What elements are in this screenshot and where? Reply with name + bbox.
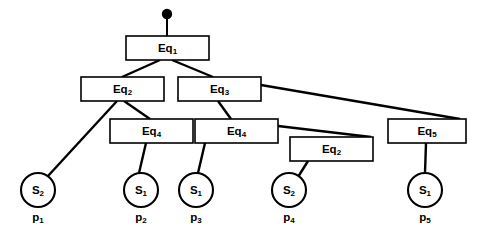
edge-eq3-to-eq4-right	[218, 101, 231, 119]
edge-eq5-to-s-p5	[425, 143, 426, 173]
edge-eq2-left-to-s-p1	[48, 101, 117, 176]
edge-eq1-to-eq3	[172, 60, 213, 77]
leaf-caption-cap-p1: p1	[32, 211, 44, 225]
root-dot	[162, 9, 172, 19]
edge-eq3-to-eq5	[261, 85, 460, 119]
edge-eq4-right-to-eq2-right	[278, 126, 371, 137]
edge-eq2-right-to-s-p4	[298, 161, 308, 177]
edge-eq4-left-to-s-p2	[139, 143, 146, 173]
edge-eq2-left-to-eq4-left	[124, 101, 150, 119]
leaf-caption-cap-p4: p4	[283, 211, 295, 225]
leaf-caption-cap-p3: p3	[190, 211, 202, 225]
leaf-caption-cap-p2: p2	[135, 211, 147, 225]
leaf-caption-cap-p5: p5	[419, 211, 431, 225]
equation-tree-diagram: Eq1Eq2Eq3Eq4Eq4Eq2Eq5S2S1S1S2S1p1p2p3p4p…	[0, 0, 482, 236]
edge-eq1-to-eq2-left	[122, 60, 160, 77]
labels-layer: Eq1Eq2Eq3Eq4Eq4Eq2Eq5S2S1S1S2S1p1p2p3p4p…	[32, 42, 437, 225]
edge-eq4-right-to-s-p3	[198, 143, 205, 173]
diagram-canvas: Eq1Eq2Eq3Eq4Eq4Eq2Eq5S2S1S1S2S1p1p2p3p4p…	[0, 0, 482, 236]
